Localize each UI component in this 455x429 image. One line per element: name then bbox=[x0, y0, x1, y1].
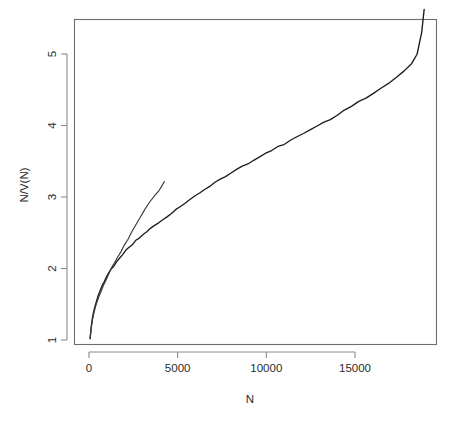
x-tick-label: 10000 bbox=[250, 362, 282, 374]
x-axis-title: N bbox=[246, 393, 254, 405]
x-tick-label: 5000 bbox=[165, 362, 191, 374]
y-tick-label: 1 bbox=[46, 337, 58, 343]
y-tick-label: 4 bbox=[46, 122, 58, 129]
y-tick-label: 2 bbox=[46, 265, 58, 271]
y-axis-title: N/V(N) bbox=[18, 167, 30, 202]
x-tick-label: 15000 bbox=[339, 362, 371, 374]
x-tick-label: 0 bbox=[86, 362, 92, 374]
y-tick-label: 5 bbox=[46, 51, 58, 57]
chart-figure: 050001000015000 N 12345 N/V(N) bbox=[0, 0, 455, 429]
figure-background bbox=[0, 0, 455, 429]
chart-canvas: 050001000015000 N 12345 N/V(N) bbox=[0, 0, 455, 429]
y-tick-label: 3 bbox=[46, 194, 58, 200]
